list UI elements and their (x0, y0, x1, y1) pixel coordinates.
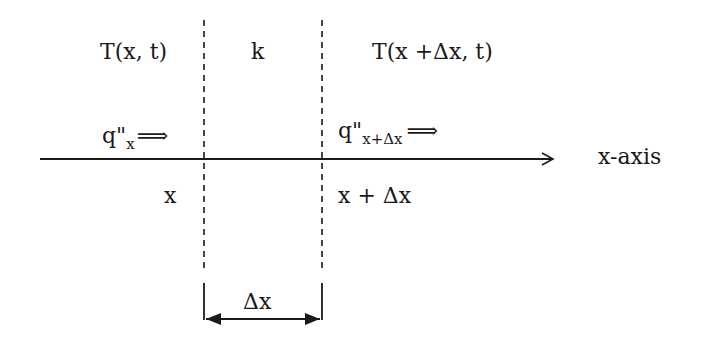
temperature-right-label: T(x +Δx, t) (372, 39, 493, 64)
position-x-plus-dx-label: x + Δx (338, 183, 412, 208)
flux-left-arrow-icon: ⟹ (137, 123, 169, 148)
heat-flux-left-label: q"x⟹ (102, 123, 168, 153)
diagram-canvas: T(x, t) k T(x +Δx, t) q"x⟹ q"x+Δx⟹ x-axi… (0, 0, 707, 347)
x-axis-label: x-axis (598, 144, 661, 169)
flux-left-subscript: x (126, 135, 135, 153)
flux-right-arrow-icon: ⟹ (407, 118, 439, 143)
heat-conduction-diagram: T(x, t) k T(x +Δx, t) q"x⟹ q"x+Δx⟹ x-axi… (0, 0, 707, 347)
width-delta-x-label: Δx (243, 289, 272, 314)
flux-right-subscript: x+Δx (362, 130, 403, 148)
position-x-label: x (164, 183, 177, 208)
flux-left-symbol: q" (102, 123, 126, 148)
conductivity-label: k (251, 39, 265, 64)
heat-flux-right-label: q"x+Δx⟹ (338, 118, 438, 148)
flux-right-symbol: q" (338, 118, 362, 143)
temperature-left-label: T(x, t) (100, 39, 167, 64)
